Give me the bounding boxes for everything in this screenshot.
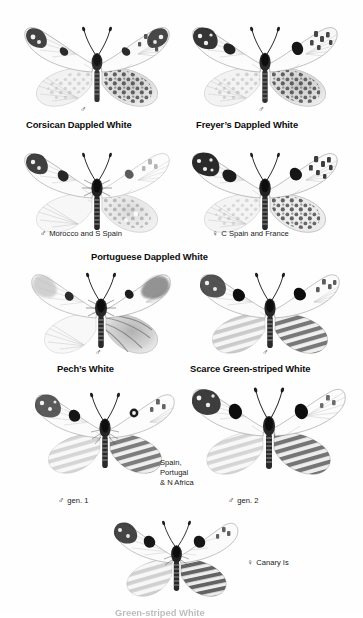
male-symbol-icon: ♂ (58, 496, 67, 505)
region-note-spain-portugal-n-africa: Spain, Portugal & N Africa (160, 458, 194, 489)
specimen-corsican-dappled-white (18, 14, 176, 114)
species-name-scarce-green-striped-white: Scarce Green-striped White (190, 363, 310, 374)
sex-region-portuguese-male: ♂Morocco and S Spain (40, 229, 122, 238)
specimen-scarce-green-striped-white (194, 262, 346, 362)
specimen-portuguese-dappled-white-female (186, 140, 344, 240)
generation-label-gen2: gen. 2 (237, 496, 258, 505)
generation-label-gen1: gen. 1 (67, 496, 88, 505)
species-name-corsican-dappled-white: Corsican Dappled White (26, 119, 132, 130)
male-symbol-icon: ♂ (40, 229, 49, 238)
specimen-pechs-white (26, 262, 176, 362)
specimen-freyers-dappled-white (186, 14, 344, 114)
group-heading-portuguese-dappled-white: Portuguese Dappled White (91, 251, 208, 262)
sex-symbol-freyers: ♂ (258, 105, 264, 114)
bottom-caption-green-striped-white: Green-striped White (115, 607, 205, 618)
region-text-portuguese-female: C Spain and France (221, 229, 289, 238)
sex-generation-gen1: ♂gen. 1 (58, 496, 88, 505)
sex-symbol-scarce-green-striped: ♂ (262, 348, 268, 357)
species-name-pechs-white: Pech’s White (57, 363, 114, 374)
region-text-portuguese-male: Morocco and S Spain (49, 229, 122, 238)
sex-symbol-corsican: ♂ (80, 105, 86, 114)
specimen-green-striped-white-canary (110, 512, 242, 604)
female-symbol-icon: ♀ (212, 229, 221, 238)
specimen-green-striped-white-gen2 (186, 376, 352, 484)
region-text-canary-is: Canary Is (256, 558, 289, 567)
specimen-green-striped-white-gen1 (30, 382, 180, 482)
sex-symbol-pechs: ♂ (95, 348, 101, 357)
species-name-freyers-dappled-white: Freyer’s Dappled White (196, 119, 298, 130)
specimen-portuguese-dappled-white-male (18, 140, 176, 240)
sex-generation-gen2: ♂gen. 2 (228, 496, 258, 505)
sex-region-canary-is: ♀Canary Is (247, 558, 289, 567)
sex-region-portuguese-female: ♀C Spain and France (212, 229, 289, 238)
female-symbol-icon: ♀ (247, 558, 256, 567)
male-symbol-icon: ♂ (228, 496, 237, 505)
